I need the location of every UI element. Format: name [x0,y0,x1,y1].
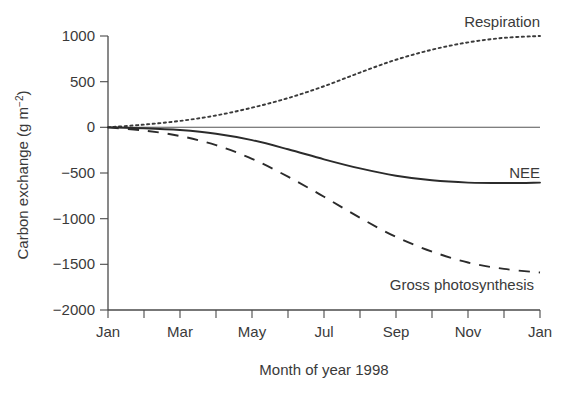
x-tick-label-sep: Sep [383,323,410,340]
y-tick-label-m1500: −1500 [53,255,95,272]
series-label-nee: NEE [509,164,540,181]
y-tick-label-m1000: −1000 [53,210,95,227]
carbon-exchange-line-chart: Carbon exchange (g m−2) 1000 500 0 −500 … [0,0,582,400]
svg-text:Carbon exchange (g m−2): Carbon exchange (g m−2) [14,91,31,260]
series-line-gross-photosynthesis [108,127,540,272]
y-tick-label-500: 500 [70,73,95,90]
series-line-respiration [108,36,540,127]
series-label-gross-photosynthesis: Gross photosynthesis [390,276,534,293]
y-tick-label-0: 0 [87,118,95,135]
y-axis-ticks [100,36,108,310]
chart-figure: Carbon exchange (g m−2) 1000 500 0 −500 … [0,0,582,400]
y-tick-label-m500: −500 [61,164,95,181]
x-tick-label-nov: Nov [455,323,482,340]
x-tick-label-may: May [238,323,267,340]
series-line-nee [108,127,540,183]
x-tick-label-jan-end: Jan [528,323,552,340]
x-tick-label-mar: Mar [167,323,193,340]
y-tick-label-1000: 1000 [62,27,95,44]
x-axis-tick-labels: Jan Mar May Jul Sep Nov Jan [96,323,552,340]
y-tick-label-m2000: −2000 [53,301,95,318]
x-axis-title: Month of year 1998 [259,361,388,378]
x-tick-label-jul: Jul [314,323,333,340]
y-axis-title-close: ) [14,91,31,96]
x-axis-ticks [108,310,540,318]
y-axis-title-text: Carbon exchange (g m [14,107,31,260]
x-tick-label-jan-start: Jan [96,323,120,340]
y-axis-title-superscript: −2 [14,95,25,107]
series-label-respiration: Respiration [464,13,540,30]
y-axis-title: Carbon exchange (g m−2) [14,91,31,260]
y-axis-tick-labels: 1000 500 0 −500 −1000 −1500 −2000 [53,27,95,318]
